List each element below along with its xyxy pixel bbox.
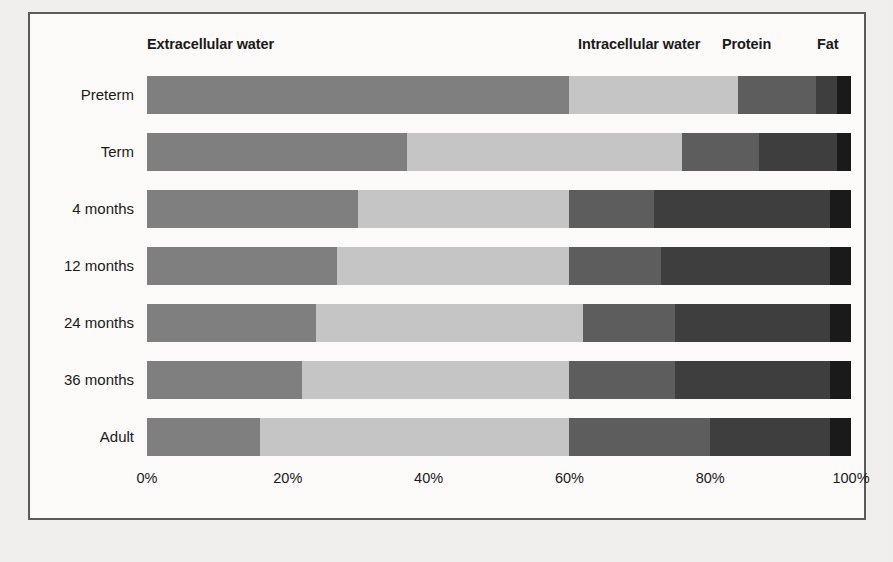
bar-track: [147, 361, 851, 399]
bar-segment: [830, 247, 851, 285]
category-label-12-months: 12 months: [64, 247, 147, 285]
bar-segment: [337, 247, 569, 285]
bar-segment: [147, 418, 260, 456]
bar-row: Preterm: [147, 76, 851, 114]
bar-segment: [147, 247, 337, 285]
legend-label-extracellular-water: Extracellular water: [147, 36, 274, 52]
bar-track: [147, 190, 851, 228]
bar-segment: [583, 304, 675, 342]
bar-row: 12 months: [147, 247, 851, 285]
bar-track: [147, 76, 851, 114]
bar-row: 4 months: [147, 190, 851, 228]
bar-segment: [738, 76, 815, 114]
chart-legend: Extracellular water Intracellular water …: [30, 36, 864, 58]
bar-segment: [830, 190, 851, 228]
bar-segment: [302, 361, 570, 399]
page-background: Extracellular water Intracellular water …: [0, 0, 893, 562]
bar-segment: [830, 361, 851, 399]
bar-segment: [147, 76, 569, 114]
bar-segment: [147, 133, 407, 171]
legend-label-protein: Protein: [722, 36, 771, 52]
bar-segment: [147, 304, 316, 342]
x-axis-tick: 60%: [555, 470, 584, 486]
bar-segment: [675, 361, 830, 399]
figure-frame: Extracellular water Intracellular water …: [28, 12, 866, 520]
bar-segment: [675, 304, 830, 342]
bar-track: [147, 133, 851, 171]
bar-segment: [837, 76, 851, 114]
bar-segment: [147, 190, 358, 228]
bar-segment: [830, 304, 851, 342]
category-label-36-months: 36 months: [64, 361, 147, 399]
legend-label-fat: Fat: [817, 36, 838, 52]
bar-segment: [830, 418, 851, 456]
bar-segment: [569, 190, 653, 228]
category-label-term: Term: [101, 133, 147, 171]
plot-area: PretermTerm4 months12 months24 months36 …: [147, 66, 851, 466]
bar-segment: [569, 76, 738, 114]
bar-segment: [569, 361, 675, 399]
bar-segment: [316, 304, 584, 342]
bar-segment: [569, 418, 710, 456]
bar-track: [147, 304, 851, 342]
x-axis-tick: 80%: [696, 470, 725, 486]
bar-row: Adult: [147, 418, 851, 456]
bar-segment: [682, 133, 759, 171]
category-label-4-months: 4 months: [72, 190, 147, 228]
bar-track: [147, 418, 851, 456]
bar-segment: [358, 190, 569, 228]
bar-row: 36 months: [147, 361, 851, 399]
bar-row: Term: [147, 133, 851, 171]
bar-segment: [654, 190, 830, 228]
bar-track: [147, 247, 851, 285]
bar-segment: [569, 247, 661, 285]
bar-segment: [710, 418, 830, 456]
x-axis: 0%20%40%60%80%100%: [147, 470, 851, 494]
bar-row: 24 months: [147, 304, 851, 342]
bar-segment: [260, 418, 570, 456]
category-label-adult: Adult: [100, 418, 147, 456]
bar-segment: [661, 247, 830, 285]
bar-segment: [816, 76, 837, 114]
legend-label-intracellular-water: Intracellular water: [578, 36, 700, 52]
x-axis-tick: 20%: [273, 470, 302, 486]
category-label-24-months: 24 months: [64, 304, 147, 342]
bar-segment: [759, 133, 836, 171]
bar-segment: [147, 361, 302, 399]
bar-segment: [837, 133, 851, 171]
x-axis-tick: 0%: [137, 470, 158, 486]
category-label-preterm: Preterm: [81, 76, 147, 114]
x-axis-tick: 100%: [832, 470, 869, 486]
x-axis-tick: 40%: [414, 470, 443, 486]
bar-segment: [407, 133, 682, 171]
